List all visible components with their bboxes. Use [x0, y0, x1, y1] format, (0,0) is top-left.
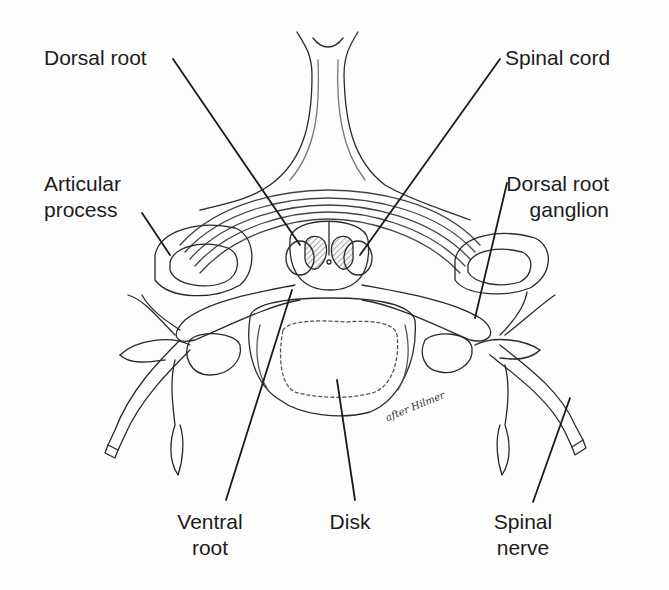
- left-spinal-nerve: [105, 295, 190, 475]
- label-dorsal-root-ganglion-line1: Dorsal root: [505, 172, 609, 196]
- anatomy-diagram: Dorsal root Spinal cord Articular proces…: [0, 0, 669, 590]
- label-spinal-nerve-line1: Spinal: [485, 510, 561, 534]
- leader-lines: [142, 59, 570, 502]
- label-disk: Disk: [320, 510, 380, 534]
- right-articular-process: [455, 234, 548, 294]
- label-spinal-nerve-line2: nerve: [485, 536, 561, 560]
- leader-articular-process: [142, 213, 170, 255]
- right-spinal-nerve: [490, 292, 586, 475]
- leader-dorsal-root: [173, 59, 300, 245]
- nerve-roots: [176, 285, 490, 341]
- leader-disk: [337, 380, 355, 500]
- transverse-processes: [120, 334, 540, 375]
- spinal-cord: [290, 221, 369, 290]
- label-ventral-root-line1: Ventral: [170, 510, 250, 534]
- vertebra-illustration: [0, 0, 669, 590]
- label-spinal-cord: Spinal cord: [505, 46, 610, 70]
- label-dorsal-root: Dorsal root: [44, 46, 147, 70]
- leader-dorsal-root-ganglion: [475, 183, 507, 318]
- leader-spinal-cord: [360, 59, 500, 255]
- leader-spinal-nerve: [533, 398, 570, 502]
- label-ventral-root-line2: root: [170, 536, 250, 560]
- vertebral-body: [249, 298, 416, 416]
- label-articular-process-line2: process: [44, 198, 118, 222]
- label-articular-process-line1: Articular: [44, 172, 121, 196]
- spinous-process: [200, 32, 470, 220]
- label-dorsal-root-ganglion-line2: ganglion: [505, 198, 609, 222]
